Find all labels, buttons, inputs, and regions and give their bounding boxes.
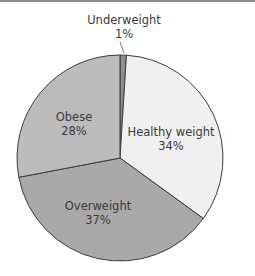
overweight-label: Overweight bbox=[65, 199, 132, 213]
overweight-pct: 37% bbox=[85, 213, 111, 227]
underweight-leader-line bbox=[120, 42, 124, 53]
healthy-weight-label: Healthy weight bbox=[128, 125, 215, 139]
healthy-weight-pct: 34% bbox=[158, 139, 184, 153]
obese-pct: 28% bbox=[61, 124, 87, 138]
obese-label: Obese bbox=[56, 110, 93, 124]
pie-slices bbox=[17, 55, 223, 261]
underweight-label: Underweight bbox=[87, 13, 161, 27]
pie-chart: Underweight 1% Obese 28% Healthy weight … bbox=[0, 0, 255, 276]
underweight-pct: 1% bbox=[115, 27, 133, 41]
